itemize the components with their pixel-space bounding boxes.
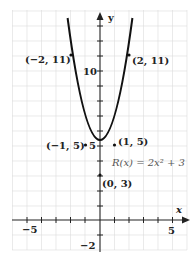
x-axis-arrow-icon bbox=[182, 217, 190, 224]
point-label-neg1-5: (−1, 5) bbox=[46, 140, 85, 152]
point-label-neg2-11: (−2, 11) bbox=[25, 54, 71, 66]
parabola-chart: y x −5 5 10 5 −2 (−2, 11) (2, 11) (−1, 5… bbox=[0, 0, 195, 268]
point-label-1-5: (1, 5) bbox=[118, 136, 148, 148]
point-label-2-11: (2, 11) bbox=[132, 55, 169, 67]
x-axis-label: x bbox=[175, 204, 183, 215]
point-label-0-3: (0, 3) bbox=[102, 178, 132, 190]
y-axis-arrow-icon bbox=[97, 12, 104, 20]
y-axis-label: y bbox=[107, 12, 115, 23]
y-tick-label-5: 5 bbox=[89, 140, 96, 151]
function-label: R(x) = 2x² + 3 bbox=[111, 157, 185, 168]
x-tick-label-5: 5 bbox=[168, 225, 175, 236]
x-tick-label-neg5: −5 bbox=[22, 224, 37, 235]
y-tick-label-10: 10 bbox=[83, 66, 97, 77]
y-tick-label-neg2: −2 bbox=[80, 240, 95, 251]
